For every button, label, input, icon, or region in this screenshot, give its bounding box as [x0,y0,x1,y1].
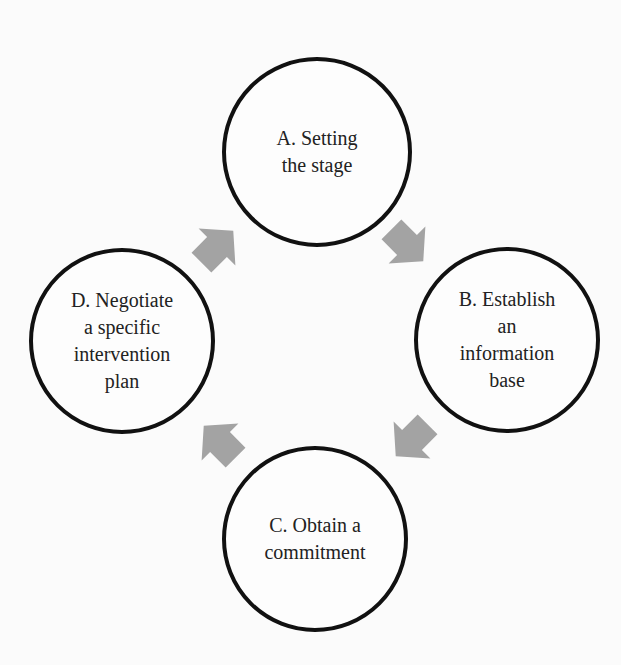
node-c-obtain-commitment: C. Obtain a commitment [222,446,408,632]
node-d-label: D. Negotiate a specific intervention pla… [71,287,173,395]
arrow-d-to-a-icon [183,212,252,281]
arrow-c-to-d-icon [185,407,254,476]
node-d-negotiate-intervention-plan: D. Negotiate a specific intervention pla… [29,248,215,434]
arrow-b-to-c-icon [377,406,446,475]
node-b-establish-information-base: B. Establish an information base [414,247,600,433]
node-a-setting-the-stage: A. Setting the stage [222,57,412,247]
node-b-label: B. Establish an information base [459,286,556,394]
node-c-label: C. Obtain a commitment [264,512,365,566]
cycle-diagram: A. Setting the stage B. Establish an inf… [0,0,621,665]
arrow-a-to-b-icon [373,211,442,280]
node-a-label: A. Setting the stage [276,125,357,179]
